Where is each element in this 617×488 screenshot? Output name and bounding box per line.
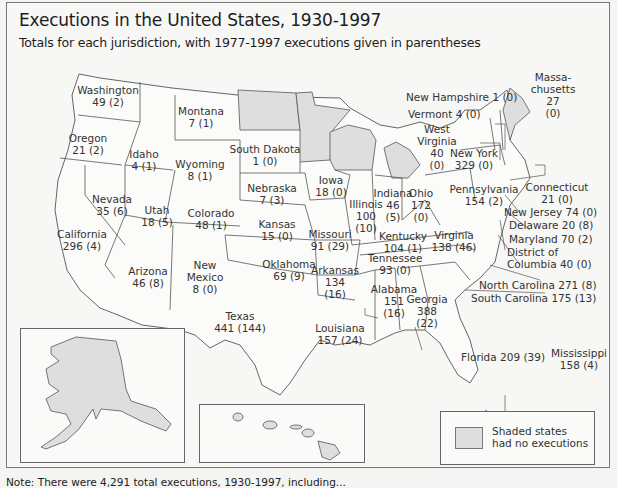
label-kansas: Kansas15 (0)	[258, 218, 295, 242]
label-virginia: Virginia138 (46)	[432, 229, 477, 253]
label-iowa: Iowa18 (0)	[315, 174, 347, 198]
hawaii-shape	[200, 405, 364, 462]
label-colorado: Colorado48 (1)	[188, 207, 235, 231]
label-maryland: Maryland 70 (2)	[509, 233, 593, 245]
label-georgia: Georgia388(22)	[406, 293, 447, 329]
label-arizona: Arizona46 (8)	[128, 265, 167, 289]
label-north-carolina: North Carolina 271 (8)	[479, 279, 597, 291]
label-louisiana: Louisiana157 (24)	[315, 322, 365, 346]
label-south-dakota: South Dakota1 (0)	[229, 143, 300, 167]
label-nevada: Nevada35 (6)	[92, 193, 132, 217]
state-north-dakota	[238, 90, 300, 130]
hawaii-inset	[199, 404, 365, 463]
label-connecticut: Connecticut21 (0)	[526, 181, 589, 205]
label-delaware: Delaware 20 (8)	[509, 219, 593, 231]
footer-note: Note: There were 4,291 total executions,…	[6, 476, 346, 488]
label-oklahoma: Oklahoma69 (9)	[262, 258, 315, 282]
label-new-york: New York329 (0)	[450, 147, 498, 171]
label-massachusetts: Massa-chusetts27(0)	[531, 71, 576, 119]
legend-text: Shaded stateshad no executions	[492, 425, 588, 449]
label-idaho: Idaho4 (1)	[129, 148, 158, 172]
label-pennsylvania: Pennsylvania154 (2)	[450, 183, 519, 207]
label-utah: Utah18 (5)	[141, 204, 173, 228]
alaska-shape	[21, 329, 184, 462]
label-new-jersey: New Jersey 74 (0)	[504, 206, 597, 218]
label-kentucky: Kentucky104 (1)	[379, 230, 427, 254]
label-new-hampshire: New Hampshire 1 (0)	[406, 91, 517, 103]
legend: Shaded stateshad no executions	[440, 411, 595, 465]
alaska-inset	[20, 328, 185, 463]
label-south-carolina: South Carolina 175 (13)	[471, 292, 596, 304]
label-florida: Florida 209 (39)	[461, 351, 545, 363]
label-wyoming: Wyoming8 (1)	[175, 158, 224, 182]
label-missouri: Missouri91 (29)	[308, 228, 351, 252]
label-california: California296 (4)	[57, 228, 107, 252]
state-wisconsin	[330, 125, 376, 170]
label-arkansas: Arkansas134(16)	[311, 264, 359, 300]
label-indiana: Indiana46(5)	[374, 187, 413, 223]
label-texas: Texas441 (144)	[214, 310, 266, 334]
label-tennessee: Tennessee93 (0)	[368, 252, 423, 276]
label-montana: Montana7 (1)	[178, 105, 224, 129]
label-washington: Washington49 (2)	[77, 84, 139, 108]
label-dc: District ofColumbia 40 (0)	[507, 246, 591, 270]
label-vermont: Vermont 4 (0)	[408, 108, 481, 120]
label-oregon: Oregon21 (2)	[69, 132, 108, 156]
label-new-mexico: NewMexico8 (0)	[187, 259, 224, 295]
label-ohio: Ohio172(0)	[409, 187, 433, 223]
legend-swatch-shaded	[455, 427, 483, 449]
label-nebraska: Nebraska7 (3)	[247, 182, 297, 206]
label-mississippi: Mississippi158 (4)	[551, 347, 607, 371]
